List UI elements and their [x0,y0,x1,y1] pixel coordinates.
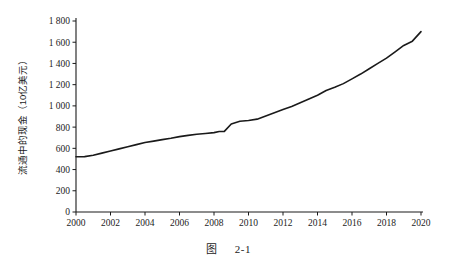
y-tick-label: 1 800 [49,16,71,26]
x-tick-label: 2004 [136,218,155,228]
x-tick-label: 2020 [412,218,431,228]
y-tick-label: 800 [56,123,71,133]
y-tick-label: 0 [65,207,70,217]
y-axis-title-text: 流通中的现金（10亿美元） [17,55,28,176]
y-tick-label: 1 400 [49,59,71,69]
x-tick-label: 2014 [308,218,327,228]
y-tick-labels: 02004006008001 0001 2001 4001 6001 800 [49,16,71,217]
data-series-line [76,32,421,157]
y-tick-label: 1 000 [49,101,71,111]
axis-lines [76,18,423,212]
y-tick-label: 200 [56,186,71,196]
y-tick-label: 400 [56,165,71,175]
x-tick-label: 2008 [205,218,224,228]
x-tick-label: 2002 [101,218,120,228]
x-tick-label: 2018 [377,218,396,228]
x-tick-labels: 2000200220042006200820102012201420162018… [67,218,431,228]
y-tick-label: 1 600 [49,38,71,48]
x-tick-label: 2016 [343,218,362,228]
x-tick-label: 2006 [170,218,189,228]
y-tick-label: 1 200 [49,80,71,90]
x-tick-label: 2000 [67,218,86,228]
x-tick-label: 2010 [239,218,258,228]
figure-container: 流通中的现金（10亿美元） 02004006008001 0001 2001 4… [0,0,457,268]
y-tick-label: 600 [56,144,71,154]
figure-caption: 图 2-1 [0,240,457,256]
y-axis-title: 流通中的现金（10亿美元） [17,55,28,176]
caption-number: 2-1 [235,243,251,255]
caption-label: 图 [206,243,218,255]
x-tick-label: 2012 [274,218,293,228]
line-chart: 流通中的现金（10亿美元） 02004006008001 0001 2001 4… [0,0,457,268]
